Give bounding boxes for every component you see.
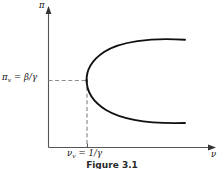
curve-lower-branch <box>87 80 185 123</box>
y-axis <box>46 6 52 148</box>
y-tick-label: πv = β/γ <box>2 73 37 83</box>
x-axis-title: ν <box>211 150 216 159</box>
curve-upper-branch <box>87 39 185 81</box>
y-tick-label-expression: = β/γ <box>11 72 37 82</box>
figure-container: π ν πv = β/γ νv = 1/γ Figure 3.1 <box>0 0 224 169</box>
figure-caption: Figure 3.1 <box>0 160 224 169</box>
plot-area <box>0 0 224 169</box>
y-axis-title: π <box>39 1 45 10</box>
x-tick-label-expression: = 1/γ <box>76 148 102 158</box>
y-axis-arrow-icon <box>46 6 52 14</box>
x-tick-label: νv = 1/γ <box>67 149 102 159</box>
